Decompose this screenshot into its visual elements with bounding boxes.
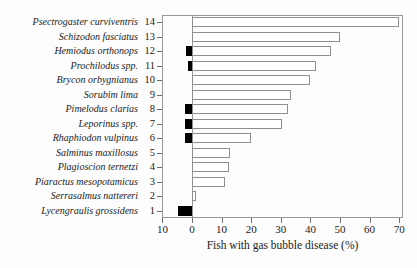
white-bar [192, 104, 288, 114]
white-bar [192, 162, 229, 172]
x-axis-tick-label: 0 [179, 223, 205, 235]
species-label: Serrasalmus nattereri [0, 190, 138, 202]
y-axis-tick [157, 66, 162, 67]
white-bar [192, 17, 399, 27]
x-axis-tick-label: 40 [297, 223, 323, 235]
species-label: Plagioscion ternetzi [0, 161, 138, 173]
y-axis-tick [157, 196, 162, 197]
white-bar [192, 148, 230, 158]
species-label: Piaractus mesopotamicus [0, 176, 138, 188]
species-label: Psectrogaster curviventris [0, 16, 138, 28]
white-bar [192, 119, 282, 129]
x-axis-title: Fish with gas bubble disease (%) [160, 239, 405, 251]
species-label: Prochilodus spp. [0, 60, 138, 72]
y-axis-tick [157, 37, 162, 38]
y-axis-tick [157, 153, 162, 154]
rank-label: 13 [139, 31, 155, 43]
rank-label: 1 [139, 205, 155, 217]
y-axis-tick [157, 167, 162, 168]
rank-label: 12 [139, 45, 155, 57]
black-bar [185, 104, 192, 114]
black-bar [186, 46, 192, 56]
white-bar [192, 133, 251, 143]
white-bar [192, 61, 316, 71]
black-bar [185, 119, 192, 129]
y-axis-tick [157, 211, 162, 212]
species-label: Leporinus spp. [0, 118, 138, 130]
y-axis-tick [157, 124, 162, 125]
black-bar [178, 206, 192, 216]
rank-label: 6 [139, 132, 155, 144]
species-label: Rhaphiodon vulpinus [0, 132, 138, 144]
x-axis-tick-label: 70 [386, 223, 412, 235]
species-label: Salminus maxillosus [0, 147, 138, 159]
white-bar [192, 177, 225, 187]
x-axis-tick-label: 20 [238, 223, 264, 235]
y-axis-tick [157, 51, 162, 52]
species-label: Sorubim lima [0, 89, 138, 101]
x-axis-tick-label: 60 [357, 223, 383, 235]
y-axis-tick [157, 109, 162, 110]
y-axis-tick [157, 22, 162, 23]
y-axis-tick [157, 95, 162, 96]
black-bar [185, 133, 192, 143]
rank-label: 9 [139, 89, 155, 101]
rank-label: 3 [139, 176, 155, 188]
x-axis-tick-label: 10 [149, 223, 175, 235]
x-axis-tick-label: 10 [209, 223, 235, 235]
species-label: Schizodon fasciatus [0, 31, 138, 43]
y-axis-tick [157, 138, 162, 139]
y-axis-tick [157, 80, 162, 81]
rank-label: 4 [139, 161, 155, 173]
rank-label: 5 [139, 147, 155, 159]
rank-label: 2 [139, 190, 155, 202]
white-bar [192, 32, 340, 42]
y-axis-tick [157, 182, 162, 183]
rank-label: 11 [139, 60, 155, 72]
black-bar [188, 61, 192, 71]
white-bar [192, 75, 310, 85]
white-bar [192, 191, 196, 201]
rank-label: 7 [139, 118, 155, 130]
species-label: Hemiodus orthonops [0, 45, 138, 57]
x-axis-tick-label: 30 [268, 223, 294, 235]
species-label: Pimelodus clarias [0, 103, 138, 115]
x-axis-tick-label: 50 [327, 223, 353, 235]
white-bar [192, 46, 331, 56]
rank-label: 8 [139, 103, 155, 115]
rank-label: 14 [139, 16, 155, 28]
gas-bubble-disease-bar-chart: Psectrogaster curviventris14Schizodon fa… [0, 0, 417, 268]
species-label: Brycon orbygnianus [0, 74, 138, 86]
species-label: Lycengraulis grossidens [0, 205, 138, 217]
rank-label: 10 [139, 74, 155, 86]
white-bar [192, 90, 291, 100]
